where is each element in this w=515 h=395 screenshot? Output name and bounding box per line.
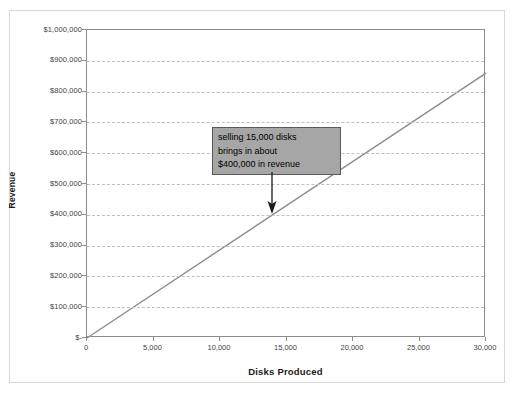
y-axis-tick-label: $- [2,333,82,342]
x-axis-tick-label: 5,000 [118,343,188,352]
gridline-horizontal [87,307,484,308]
y-axis-tick-label: $400,000 [2,209,82,218]
x-axis-tick-mark [153,337,154,341]
x-axis-tick-mark [219,337,220,341]
y-axis-tick-label: $1,000,000 [2,25,82,34]
y-axis-tick-label: $300,000 [2,240,82,249]
y-axis-tick-label: $800,000 [2,86,82,95]
y-axis-tick-label: $700,000 [2,117,82,126]
gridline-horizontal [87,122,484,123]
y-axis-tick-mark [82,91,86,92]
y-axis-tick-mark [82,183,86,184]
annotation-line-2: brings in about [218,145,336,159]
x-axis-tick-mark [86,337,87,341]
x-axis-tick-label: 30,000 [450,343,515,352]
y-axis-tick-mark [82,275,86,276]
x-axis-tick-mark [485,337,486,341]
y-axis-tick-labels: $-$100,000$200,000$300,000$400,000$500,0… [0,0,82,395]
y-axis-tick-mark [82,152,86,153]
y-axis-tick-mark [82,121,86,122]
gridline-horizontal [87,61,484,62]
annotation-callout: selling 15,000 disks brings in about $40… [212,127,341,175]
x-axis-tick-label: 20,000 [317,343,387,352]
y-axis-tick-label: $100,000 [2,302,82,311]
x-axis-tick-label: 10,000 [184,343,254,352]
y-axis-tick-label: $200,000 [2,271,82,280]
y-axis-tick-mark [82,214,86,215]
x-axis-tick-label: 15,000 [251,343,321,352]
x-axis-title: Disks Produced [86,366,485,377]
revenue-line-chart: Revenue $-$100,000$200,000$300,000$400,0… [0,0,515,395]
y-axis-tick-label: $900,000 [2,55,82,64]
gridline-horizontal [87,92,484,93]
x-axis-tick-label: 25,000 [384,343,454,352]
y-axis-tick-mark [82,306,86,307]
x-axis-tick-label: 0 [51,343,121,352]
annotation-line-3: $400,000 in revenue [218,158,336,172]
x-axis-tick-mark [419,337,420,341]
y-axis-tick-label: $500,000 [2,179,82,188]
y-axis-tick-mark [82,29,86,30]
x-axis-tick-mark [286,337,287,341]
y-axis-tick-mark [82,245,86,246]
annotation-line-1: selling 15,000 disks [218,131,336,145]
y-axis-tick-mark [82,60,86,61]
gridline-horizontal [87,246,484,247]
annotation-arrow-icon [258,172,288,216]
y-axis-tick-mark [82,337,86,338]
gridline-horizontal [87,276,484,277]
y-axis-tick-label: $600,000 [2,148,82,157]
x-axis-tick-mark [352,337,353,341]
